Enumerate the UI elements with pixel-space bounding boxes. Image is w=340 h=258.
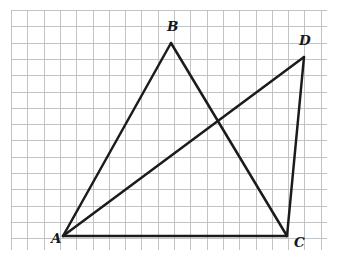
vertex-label-a: A	[49, 230, 61, 246]
geometry-canvas: ABCD	[0, 0, 340, 258]
geometry-figure: ABCD	[0, 0, 340, 258]
segment-AD	[63, 57, 304, 236]
figure-segments	[63, 43, 304, 236]
segment-AB	[63, 43, 171, 236]
vertex-label-b: B	[166, 18, 178, 34]
vertex-label-c: C	[294, 234, 305, 250]
segment-DC	[287, 57, 304, 236]
segment-BC	[171, 43, 287, 236]
vertex-labels: ABCD	[49, 18, 311, 250]
vertex-label-d: D	[298, 32, 311, 48]
